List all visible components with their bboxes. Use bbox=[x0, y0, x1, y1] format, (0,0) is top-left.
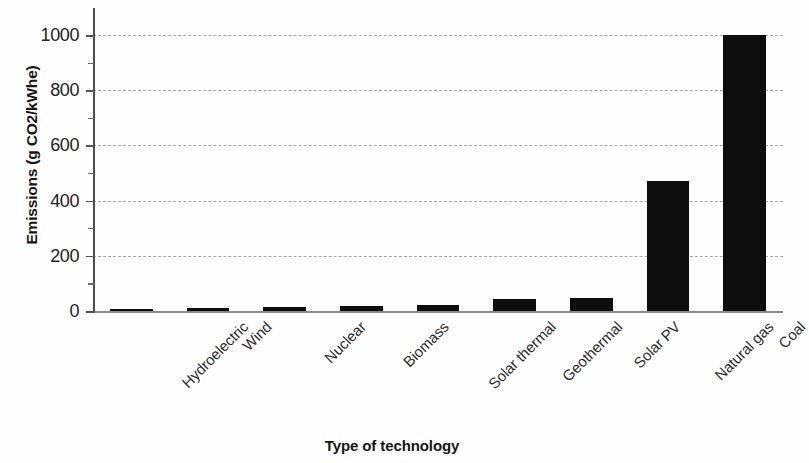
x-tick-label: Coal bbox=[775, 318, 809, 352]
y-tick-label: 800 bbox=[15, 80, 79, 101]
bars-layer bbox=[93, 8, 783, 312]
bar bbox=[263, 307, 306, 311]
bar bbox=[187, 308, 230, 311]
plot-area: 02004006008001000 bbox=[93, 8, 783, 312]
x-tick-label: Biomass bbox=[399, 318, 451, 370]
bar bbox=[110, 309, 153, 311]
x-tick-label: Nuclear bbox=[321, 318, 369, 366]
x-tick-label-text: Hydroelectric bbox=[178, 318, 251, 391]
bar bbox=[340, 306, 383, 311]
y-tick-label: 600 bbox=[15, 135, 79, 156]
x-tick-label-text: Coal bbox=[775, 318, 809, 352]
x-tick-label-text: Natural gas bbox=[712, 318, 777, 383]
x-axis-title: Type of technology bbox=[0, 437, 784, 454]
x-tick-label-text: Solar PV bbox=[630, 318, 683, 371]
y-tick-label: 400 bbox=[15, 190, 79, 211]
bar bbox=[647, 181, 690, 311]
x-tick-label-text: Biomass bbox=[399, 318, 451, 370]
bar bbox=[493, 299, 536, 311]
x-tick-labels: HydroelectricWindNuclearBiomassSolar the… bbox=[93, 312, 783, 427]
bar bbox=[417, 305, 460, 311]
x-tick-label: Natural gas bbox=[712, 318, 777, 383]
x-tick-label: Geothermal bbox=[559, 318, 626, 385]
bar bbox=[570, 298, 613, 311]
x-tick-label: Hydroelectric bbox=[178, 318, 251, 391]
y-tick-label: 1000 bbox=[15, 25, 79, 46]
y-tick-label: 0 bbox=[15, 301, 79, 322]
x-tick-label: Solar thermal bbox=[485, 318, 559, 392]
bar bbox=[723, 35, 766, 311]
y-tick-label: 200 bbox=[15, 245, 79, 266]
x-tick-label: Solar PV bbox=[630, 318, 683, 371]
x-tick-label-text: Geothermal bbox=[559, 318, 626, 385]
x-tick-label-text: Solar thermal bbox=[485, 318, 559, 392]
x-tick-label-text: Nuclear bbox=[321, 318, 369, 366]
